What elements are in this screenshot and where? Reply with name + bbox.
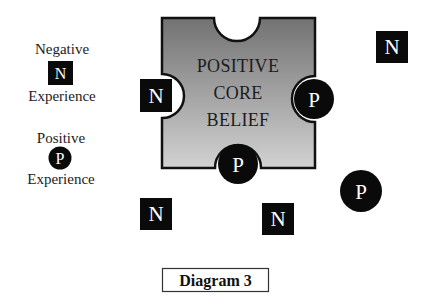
positive-token-bottom-notch: P [218,144,258,184]
caption-text: Diagram 3 [179,272,251,290]
token-n-top-right-letter: N [384,35,399,59]
token-p-bottom-letter: P [232,153,244,177]
negative-token-bottom-middle: N [262,203,294,235]
token-n-bottom-middle-letter: N [270,207,285,231]
legend-negative-bottom-label: Experience [28,88,96,104]
core-text-line1: POSITIVE [197,56,279,76]
legend-negative: Negative N Experience [28,41,96,104]
core-text-line3: BELIEF [207,110,270,130]
legend-negative-top-label: Negative [35,41,89,57]
diagram-canvas: Negative N Experience Positive P Experie… [0,0,427,308]
legend-positive-symbol: P [56,150,65,167]
negative-square-icon: N [48,61,73,85]
legend-positive-top-label: Positive [37,130,86,146]
token-p-bottom-right-letter: P [355,180,367,204]
negative-token-top-right: N [376,31,408,63]
legend-negative-symbol: N [55,65,67,82]
positive-token-bottom-right: P [340,170,382,212]
negative-token-bottom-left: N [140,198,172,230]
legend-positive: Positive P Experience [27,130,95,187]
legend-positive-bottom-label: Experience [27,171,95,187]
token-n-left-letter: N [148,84,163,108]
token-p-right-letter: P [308,88,320,112]
diagram-caption: Diagram 3 [163,269,269,292]
token-n-bottom-left-letter: N [148,202,163,226]
core-text-line2: CORE [213,83,262,103]
positive-token-right-notch: P [294,79,334,119]
positive-circle-icon: P [49,147,72,170]
negative-token-left-notch: N [140,79,172,112]
